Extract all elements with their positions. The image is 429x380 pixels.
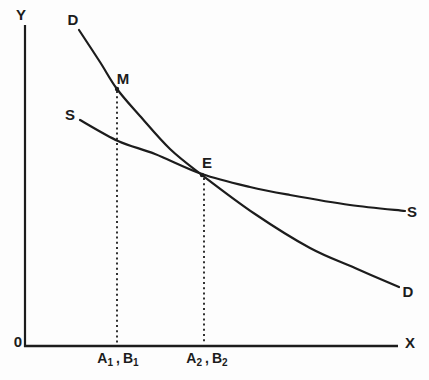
y-axis-label: Y	[16, 7, 26, 22]
x-axis-label: X	[405, 335, 415, 350]
tick1-comma: ,	[116, 350, 120, 366]
tick1-sub1: 1	[107, 357, 113, 368]
demand-curve-top-label: D	[68, 12, 79, 27]
tick1-sub2: 1	[133, 357, 139, 368]
supply-curve-right-label: S	[407, 204, 417, 219]
supply-curve	[80, 120, 405, 211]
point-e-label: E	[202, 155, 212, 170]
origin-label: 0	[14, 334, 22, 349]
tick2-var1: A	[186, 350, 196, 366]
tick2-sub2: 2	[222, 357, 228, 368]
demand-curve-right-label: D	[403, 284, 414, 299]
tick1-var2: B	[123, 350, 133, 366]
x-tick-label-a1b1: A1,B1	[97, 351, 138, 368]
tick2-comma: ,	[205, 350, 209, 366]
supply-demand-diagram: Y 0 X D S M E S D A1,B1 A2,B2	[0, 0, 429, 380]
supply-curve-left-label: S	[65, 107, 75, 122]
point-m-marker	[115, 87, 119, 91]
x-tick-label-a2b2: A2,B2	[186, 351, 227, 368]
tick2-var2: B	[212, 350, 222, 366]
point-e-marker	[200, 173, 204, 177]
diagram-canvas	[0, 0, 429, 380]
point-m-label: M	[117, 71, 130, 86]
tick2-sub1: 2	[196, 357, 202, 368]
tick1-var1: A	[97, 350, 107, 366]
